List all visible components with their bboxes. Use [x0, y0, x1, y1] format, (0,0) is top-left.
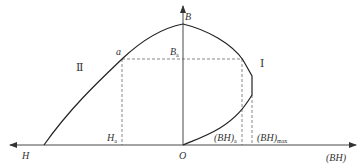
bha-main-text: (BH) — [214, 132, 234, 143]
h-axis-label: H — [22, 151, 29, 161]
b-axis-text: B — [185, 11, 191, 22]
bh-axis-label: (BH) — [326, 153, 346, 163]
bha-subscript: a — [234, 138, 237, 144]
point-a-text: a — [116, 46, 121, 57]
bhmax-label: (BH)max — [257, 133, 287, 144]
b-axis-label: B — [185, 12, 191, 22]
ha-label: Ha — [107, 133, 117, 144]
origin-label: O — [179, 151, 186, 161]
point-a-label: a — [116, 47, 121, 57]
origin-text: O — [179, 150, 186, 161]
curve-i-text: Ⅰ — [260, 57, 264, 69]
ba-label: Ba — [170, 47, 179, 58]
h-axis-text: H — [22, 150, 29, 161]
curve-ii-text: Ⅱ — [76, 61, 83, 73]
diagram-canvas — [0, 0, 364, 168]
curve-ii — [44, 24, 183, 145]
bha-label: (BH)a — [214, 133, 237, 144]
bh-axis-text: (BH) — [326, 152, 346, 163]
bh-diagram: B a Ba Ⅱ Ⅰ Ha H O (BH)a (BH)max (BH) — [0, 0, 364, 168]
curve-i-label: Ⅰ — [260, 58, 264, 69]
ha-subscript: a — [114, 138, 117, 144]
bhmax-main-text: (BH) — [257, 132, 277, 143]
bhmax-subscript: max — [277, 138, 287, 144]
curve-ii-label: Ⅱ — [76, 62, 83, 73]
ba-subscript: a — [176, 52, 179, 58]
